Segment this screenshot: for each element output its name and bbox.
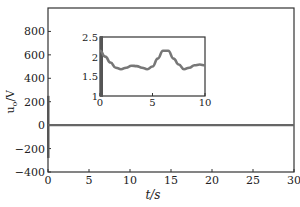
inset-plot: 051011.522.5 xyxy=(82,32,211,108)
x-tick-label: 15 xyxy=(164,174,178,187)
chart: 051015202530−400−2000200400600800t/suo/V… xyxy=(0,0,300,207)
x-axis-label: t/s xyxy=(145,188,160,202)
inset-y-tick-label: 1.5 xyxy=(82,71,98,82)
x-tick-label: 25 xyxy=(246,174,260,187)
inset-y-tick-label: 2.5 xyxy=(82,32,98,43)
y-tick-label: 400 xyxy=(24,72,45,85)
y-tick-label: 600 xyxy=(24,49,45,62)
inset-startup-transient xyxy=(100,37,103,96)
y-tick-label: 0 xyxy=(38,119,45,132)
y-tick-label: −400 xyxy=(15,166,45,179)
y-tick-label: 800 xyxy=(24,25,45,38)
y-tick-label: −200 xyxy=(15,143,45,156)
inset-y-tick-label: 2 xyxy=(92,52,98,63)
x-tick-label: 10 xyxy=(123,174,137,187)
x-tick-label: 30 xyxy=(287,174,300,187)
x-tick-label: 0 xyxy=(45,174,52,187)
x-tick-label: 5 xyxy=(86,174,93,187)
inset-x-tick-label: 10 xyxy=(199,97,212,108)
x-tick-label: 20 xyxy=(205,174,219,187)
startup-transient xyxy=(47,96,50,158)
inset-y-tick-label: 1 xyxy=(92,91,98,102)
y-tick-label: 200 xyxy=(24,96,45,109)
y-axis-label: uo/V xyxy=(4,89,19,114)
inset-x-tick-label: 5 xyxy=(149,97,155,108)
